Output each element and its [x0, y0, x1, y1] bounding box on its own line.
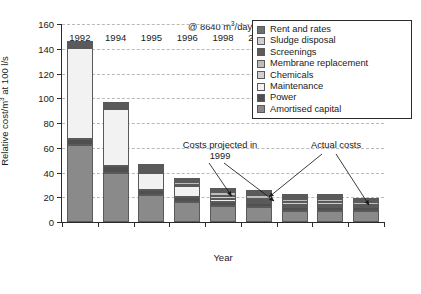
annotation-arrows — [0, 0, 421, 294]
bar-chart: @ 8640 m3/day Relative cost/m3 at 100 l/… — [0, 0, 421, 294]
arrow-actual-to-2002 — [269, 154, 322, 197]
arrow-actual-to-2005 — [336, 154, 369, 205]
arrow-projected-to-2000 — [209, 163, 232, 196]
